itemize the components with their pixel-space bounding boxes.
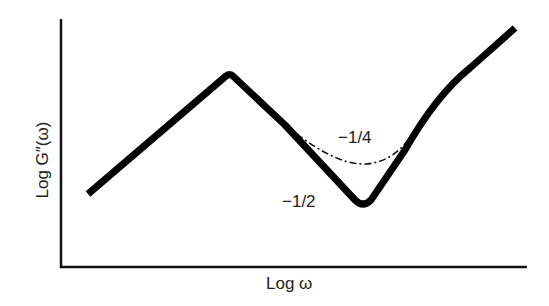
annotation-slope-quarter: −1/4 (338, 128, 372, 148)
y-axis-label: Log G″(ω) (33, 122, 53, 199)
annotation-slope-half: −1/2 (282, 192, 316, 212)
series-solid-half (88, 28, 515, 204)
x-axis-label: Log ω (266, 274, 312, 294)
chart-canvas (0, 0, 549, 306)
